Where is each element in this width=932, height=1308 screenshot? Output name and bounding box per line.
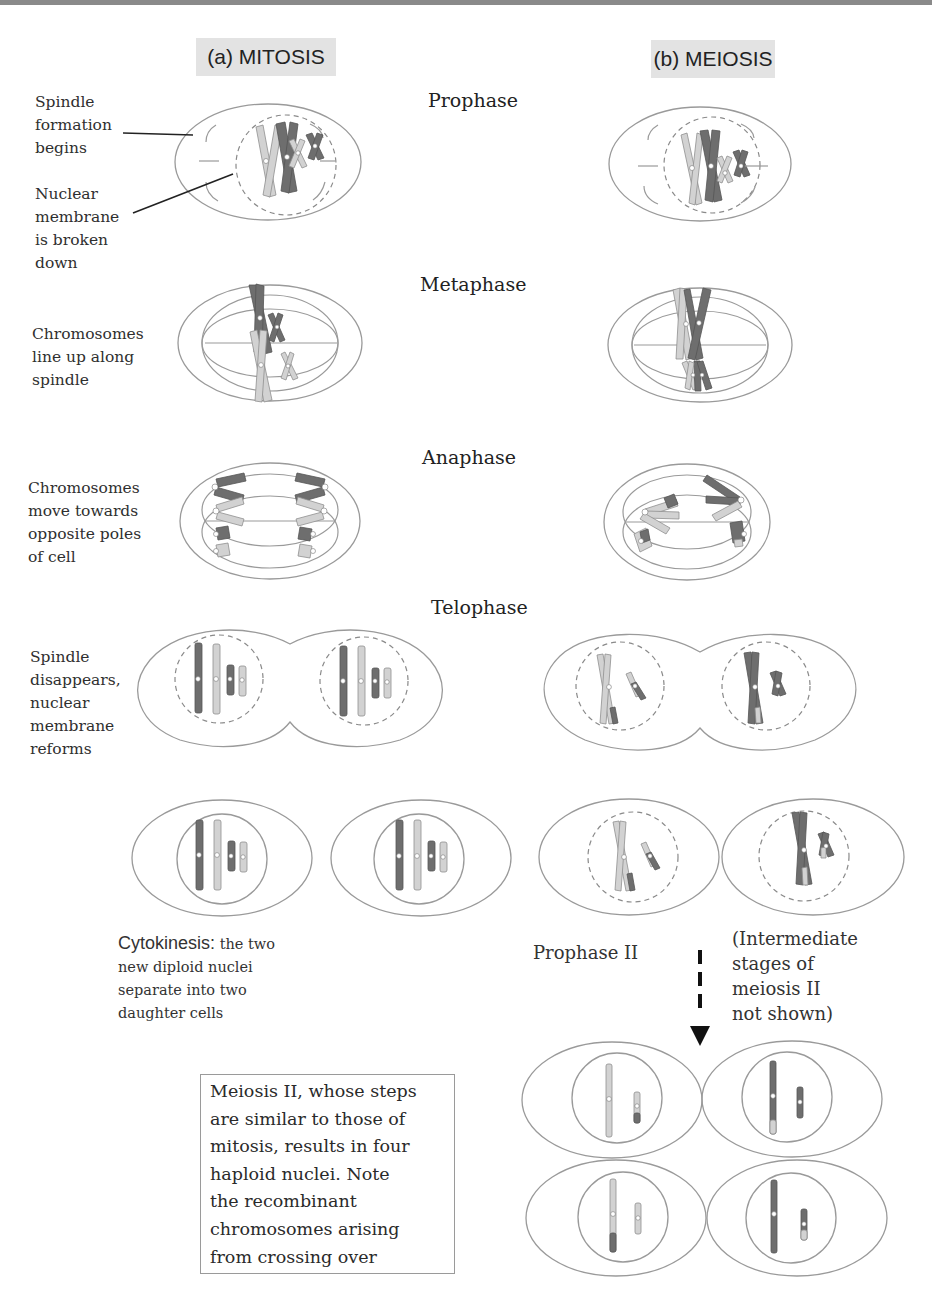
meiosis-prophase-ii-cell-2: [722, 799, 904, 915]
mitosis-daughter-cell-2: [331, 800, 511, 916]
dashed-arrow-down-icon: [690, 950, 710, 1046]
cell-division-diagram: .cell { fill: none; stroke: #9a9a9a; str…: [0, 0, 932, 1308]
haploid-cell-2: [702, 1041, 882, 1157]
spindle-leader-line: [123, 133, 193, 135]
meiosis-metaphase-cell: [608, 288, 792, 402]
meiosis-telophase-cell: [544, 634, 856, 750]
mitosis-daughter-cell-1: [132, 800, 312, 916]
mitosis-metaphase-cell: [178, 284, 362, 402]
meiosis-prophase-cell: [609, 107, 791, 221]
haploid-cell-1: [522, 1042, 702, 1158]
haploid-cell-3: [526, 1160, 706, 1276]
nuclear-membrane-leader-line: [133, 174, 233, 213]
meiosis-prophase-ii-cell-1: [539, 799, 719, 915]
mitosis-telophase-cell: [138, 630, 442, 746]
haploid-cell-4: [707, 1160, 887, 1276]
mitosis-anaphase-cell: [180, 463, 360, 579]
meiosis-anaphase-cell: [604, 464, 770, 580]
mitosis-prophase-cell: [123, 104, 361, 220]
